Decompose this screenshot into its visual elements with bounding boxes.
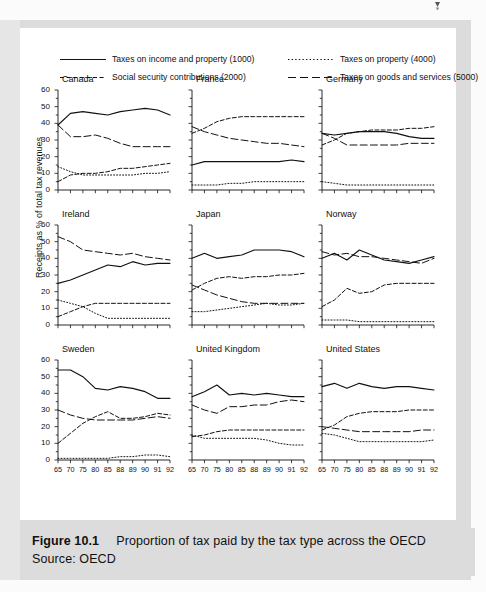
y-tick-label: 40: [34, 118, 50, 127]
y-tick-label: 10: [34, 438, 50, 447]
scan-artifact-icon: [434, 2, 441, 11]
y-tick-label: 50: [34, 237, 50, 246]
panel-plot: [320, 88, 442, 198]
series-line-goods: [322, 133, 434, 145]
series-line-goods: [58, 125, 170, 147]
axis-lines: [322, 225, 434, 325]
series-line-property: [192, 182, 304, 185]
series-line-income: [192, 250, 304, 258]
y-tick-label: 20: [34, 152, 50, 161]
series-line-goods: [58, 237, 170, 260]
series-line-property: [192, 303, 304, 311]
panel-title: Canada: [62, 74, 94, 84]
series-line-goods: [192, 127, 304, 147]
panel-plot: [320, 358, 442, 468]
y-tick-label: 0: [34, 320, 50, 329]
axis-lines: [322, 90, 434, 190]
series-line-social: [322, 410, 434, 430]
panel-plot: [320, 223, 442, 333]
series-line-social: [192, 273, 304, 290]
y-tick-label: 20: [34, 422, 50, 431]
axis-lines: [58, 360, 170, 460]
legend-label-income: Taxes on income and property (1000): [112, 54, 254, 64]
legend-label-property: Taxes on property (4000): [340, 54, 436, 64]
series-line-income: [192, 385, 304, 397]
axis-lines: [192, 360, 304, 460]
chart-panel-norway: Norway: [290, 209, 446, 349]
chart-panel-canada: Canada0102030405060: [26, 74, 182, 214]
series-line-property: [58, 167, 170, 175]
series-line-income: [322, 383, 434, 390]
panel-title: United Kingdom: [196, 344, 260, 354]
page-gutter-band: [0, 20, 20, 580]
chart-panel-sweden: Sweden010203040506065707580858889909192: [26, 344, 182, 484]
series-line-goods: [192, 285, 304, 303]
y-tick-label: 30: [34, 270, 50, 279]
figure-page: Taxes on income and property (1000)Taxes…: [0, 0, 486, 592]
series-line-goods: [192, 400, 304, 413]
panel-title: Norway: [326, 209, 357, 219]
legend-item-property: Taxes on property (4000): [288, 54, 436, 64]
y-tick-label: 30: [34, 135, 50, 144]
series-line-social: [58, 412, 170, 444]
series-line-income: [192, 160, 304, 165]
legend-swatch-income-icon: [60, 55, 106, 64]
caption-figure-number: Figure 10.1: [32, 534, 99, 548]
caption-title-text: Proportion of tax paid by the tax type a…: [116, 534, 426, 548]
series-line-property: [322, 320, 434, 322]
y-tick-label: 0: [34, 455, 50, 464]
chart-panel-germany: Germany: [290, 74, 446, 214]
series-line-income: [58, 108, 170, 125]
y-tick-label: 30: [34, 405, 50, 414]
series-line-property: [322, 433, 434, 441]
y-tick-label: 0: [34, 185, 50, 194]
panel-title: Ireland: [62, 209, 90, 219]
series-line-property: [58, 455, 170, 458]
figure-card: Taxes on income and property (1000)Taxes…: [20, 28, 456, 520]
y-tick-label: 20: [34, 287, 50, 296]
y-tick-label: 50: [34, 102, 50, 111]
y-tick-label: 60: [34, 85, 50, 94]
y-tick-label: 60: [34, 220, 50, 229]
series-line-social: [322, 127, 434, 145]
legend-swatch-property-icon: [288, 55, 334, 64]
series-line-social: [192, 430, 304, 437]
legend-item-income: Taxes on income and property (1000): [60, 54, 254, 64]
y-tick-label: 50: [34, 372, 50, 381]
caption-main-line: Figure 10.1 Proportion of tax paid by th…: [32, 534, 426, 548]
chart-panel-united-states: United States65707580858889909192: [290, 344, 446, 484]
panel-title: France: [196, 74, 224, 84]
series-line-social: [192, 117, 304, 134]
y-tick-label: 10: [34, 168, 50, 177]
chart-panel-ireland: Ireland0102030405060: [26, 209, 182, 349]
panel-title: Japan: [196, 209, 221, 219]
series-line-property: [192, 435, 304, 445]
series-line-social: [322, 283, 434, 306]
panel-title: Sweden: [62, 344, 95, 354]
series-line-property: [322, 182, 434, 185]
series-line-social: [58, 303, 170, 316]
panel-title: United States: [326, 344, 380, 354]
y-tick-label: 40: [34, 388, 50, 397]
x-tick-label: 92: [427, 465, 441, 474]
series-line-income: [58, 370, 170, 398]
figure-caption: Figure 10.1 Proportion of tax paid by th…: [20, 528, 475, 576]
y-tick-label: 60: [34, 355, 50, 364]
axis-lines: [192, 225, 304, 325]
y-tick-label: 40: [34, 253, 50, 262]
series-line-property: [58, 300, 170, 318]
series-line-goods: [322, 427, 434, 432]
caption-source-line: Source: OECD: [32, 552, 116, 566]
y-tick-label: 10: [34, 303, 50, 312]
axis-lines: [58, 225, 170, 325]
series-line-income: [322, 250, 434, 263]
panel-title: Germany: [326, 74, 363, 84]
series-line-income: [58, 262, 170, 284]
axis-lines: [192, 90, 304, 190]
